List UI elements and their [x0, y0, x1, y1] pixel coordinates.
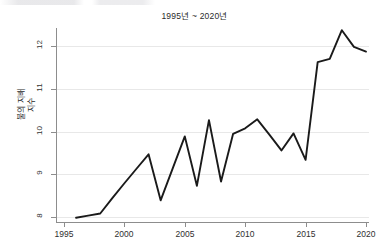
data-line-series [76, 30, 366, 218]
data-series-svg [0, 0, 389, 251]
chart-screenshot: 1995년 ~ 2020년 불의 지배 지수 12 11 10 9 8 1995… [0, 0, 389, 251]
